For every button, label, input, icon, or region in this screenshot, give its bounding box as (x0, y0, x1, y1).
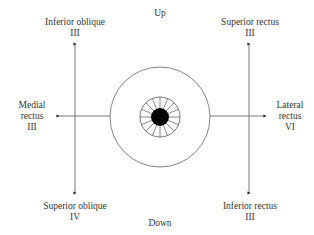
cranial-nerve: III (221, 28, 279, 39)
muscle-name-line1: Medial (19, 100, 46, 111)
superior-oblique-label: Superior oblique IV (43, 201, 107, 223)
muscle-name: Inferior oblique (45, 17, 105, 28)
up-text: Up (154, 8, 166, 19)
muscle-name-line2: rectus (19, 111, 46, 122)
down-text: Down (148, 218, 171, 229)
muscle-name-line2: rectus (277, 111, 304, 122)
muscle-name: Inferior rectus (223, 201, 277, 212)
muscle-name: Superior oblique (43, 201, 107, 212)
superior-rectus-label: Superior rectus III (221, 17, 279, 39)
pupil (151, 108, 169, 126)
cranial-nerve: III (19, 122, 46, 133)
inferior-rectus-label: Inferior rectus III (223, 201, 277, 223)
medial-rectus-label: Medial rectus III (19, 100, 46, 133)
lateral-rectus-label: Lateral rectus VI (277, 100, 304, 133)
cranial-nerve: III (45, 28, 105, 39)
muscle-name: Superior rectus (221, 17, 279, 28)
cranial-nerve: IV (43, 212, 107, 223)
inferior-oblique-label: Inferior oblique III (45, 17, 105, 39)
direction-down-label: Down (148, 218, 171, 229)
muscle-name-line1: Lateral (277, 100, 304, 111)
cranial-nerve: VI (277, 122, 304, 133)
eye-icon (110, 67, 210, 167)
direction-up-label: Up (154, 8, 166, 19)
cranial-nerve: III (223, 212, 277, 223)
